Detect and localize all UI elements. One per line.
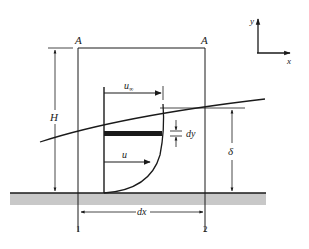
y-axis-label: y xyxy=(249,16,254,26)
station-2-label: 2 xyxy=(203,224,208,234)
boundary-layer-diagram: A A H u∞ u dy δ dx 1 2 y x xyxy=(0,0,309,249)
height-label: H xyxy=(49,111,59,123)
coordinate-axes xyxy=(257,19,290,53)
velocity-profile xyxy=(104,86,164,193)
flat-plate xyxy=(10,193,266,205)
station-1-label: 1 xyxy=(76,224,81,234)
section-label-a-right: A xyxy=(200,34,208,46)
fluid-element xyxy=(104,131,162,136)
delta-label: δ xyxy=(228,145,234,157)
x-axis-label: x xyxy=(286,56,291,66)
dy-label: dy xyxy=(186,128,196,139)
dx-label: dx xyxy=(137,206,147,217)
local-velocity-label: u xyxy=(122,149,127,160)
dy-dimension xyxy=(170,120,182,147)
diagram-canvas: A A H u∞ u dy δ dx 1 2 y x xyxy=(0,0,309,249)
section-label-a-left: A xyxy=(74,34,82,46)
free-stream-velocity-label: u∞ xyxy=(124,80,134,92)
